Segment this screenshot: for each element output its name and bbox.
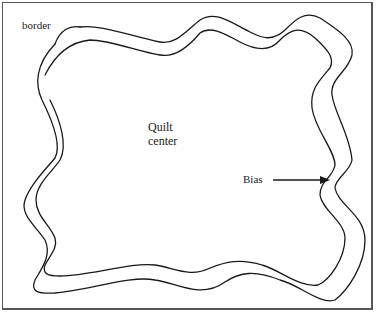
border-label: border [22, 18, 51, 32]
quilt-center-line2: center [148, 134, 208, 148]
outer-border-line [24, 15, 365, 301]
bias-label: Bias [243, 172, 263, 186]
quilt-center-label: Quilt center [148, 120, 208, 148]
inner-border-line [36, 27, 345, 286]
quilt-center-line1: Quilt [148, 120, 208, 134]
bias-arrow [273, 176, 330, 184]
quilt-diagram [0, 0, 380, 325]
